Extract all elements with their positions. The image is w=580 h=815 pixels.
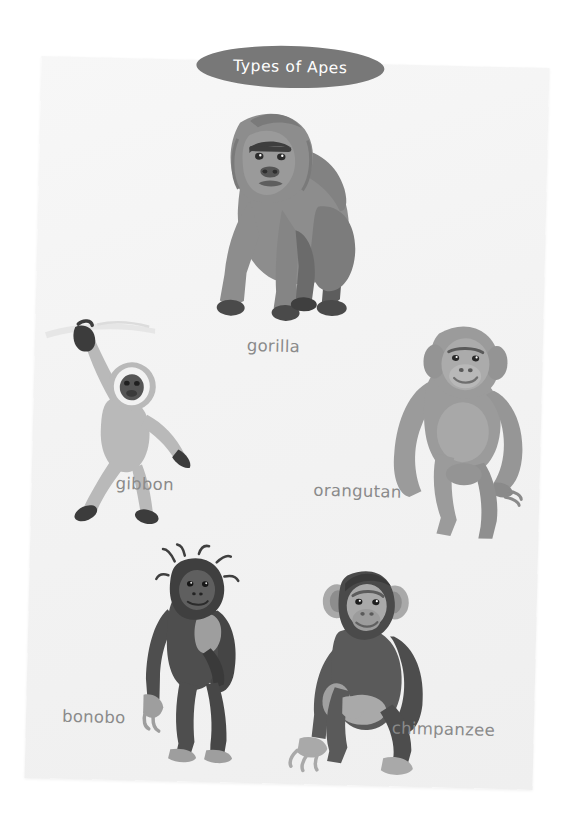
- gibbon-body: [41, 320, 194, 527]
- poster-title-banner: Types of Apes: [196, 44, 385, 90]
- ape-label-bonobo: bonobo: [62, 707, 126, 727]
- poster-stage: Types of Apes: [0, 0, 580, 815]
- ape-label-orangutan: orangutan: [313, 481, 402, 502]
- ape-label-chimpanzee: chimpanzee: [392, 719, 496, 740]
- ape-illustration-gorilla: [175, 107, 370, 326]
- ape-label-gibbon: gibbon: [115, 474, 174, 494]
- ape-illustration-orangutan: [378, 312, 533, 540]
- poster-page: Types of Apes: [25, 56, 550, 790]
- ape-illustration-bonobo: [120, 546, 265, 769]
- chimpanzee-body: [290, 570, 426, 776]
- gorilla-body: [216, 113, 358, 323]
- poster-title-text: Types of Apes: [233, 57, 348, 78]
- ape-illustration-chimpanzee: [283, 560, 453, 779]
- bonobo-body: [142, 544, 239, 764]
- ape-label-gorilla: gorilla: [247, 336, 301, 356]
- orangutan-body: [392, 325, 525, 540]
